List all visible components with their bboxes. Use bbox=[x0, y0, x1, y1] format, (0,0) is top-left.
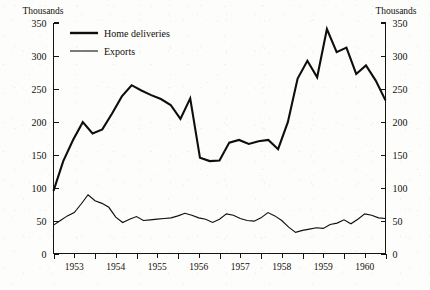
x-tick-label: 1957 bbox=[231, 262, 250, 272]
x-tick-label: 1953 bbox=[65, 262, 84, 272]
y-tick-label-right: 250 bbox=[393, 84, 408, 95]
y-tick-label-right: 200 bbox=[393, 117, 408, 128]
y-tick-label-right: 50 bbox=[393, 216, 403, 227]
line-chart: 050100150200250300350 050100150200250300… bbox=[0, 0, 430, 290]
x-tick-label: 1960 bbox=[355, 262, 374, 272]
x-tick-label: 1959 bbox=[314, 262, 333, 272]
y-tick-label-right: 150 bbox=[393, 150, 408, 161]
legend-label-home-deliveries: Home deliveries bbox=[104, 28, 170, 39]
y-axis-ticks-right bbox=[381, 24, 386, 255]
y-tick-label-left: 200 bbox=[32, 117, 47, 128]
right-unit-label: Thousands bbox=[375, 6, 416, 16]
y-axis-labels-left: 050100150200250300350 bbox=[32, 18, 47, 260]
y-tick-label-right: 100 bbox=[393, 183, 408, 194]
left-axis bbox=[54, 23, 59, 254]
y-tick-label-left: 300 bbox=[32, 51, 47, 62]
y-tick-label-left: 0 bbox=[42, 249, 47, 260]
x-tick-label: 1954 bbox=[106, 262, 125, 272]
y-tick-label-right: 0 bbox=[393, 249, 398, 260]
y-tick-label-left: 350 bbox=[32, 18, 47, 29]
x-tick-label: 1955 bbox=[148, 262, 167, 272]
chart-page: 050100150200250300350 050100150200250300… bbox=[0, 0, 430, 290]
y-tick-label-right: 350 bbox=[393, 18, 408, 29]
series-layer bbox=[54, 29, 386, 232]
y-tick-label-left: 150 bbox=[32, 150, 47, 161]
left-unit-label: Thousands bbox=[22, 6, 63, 16]
y-tick-label-left: 50 bbox=[37, 216, 47, 227]
x-axis-labels: 19531954195519561957195819591960 bbox=[65, 262, 375, 272]
y-tick-label-left: 100 bbox=[32, 183, 47, 194]
x-axis-ticks bbox=[55, 254, 387, 259]
chart-legend: Home deliveries Exports bbox=[70, 28, 170, 57]
legend-label-exports: Exports bbox=[104, 46, 135, 57]
y-axis-labels-right: 050100150200250300350 bbox=[393, 18, 408, 260]
series-line-exports bbox=[54, 195, 386, 233]
y-axis-ticks-left bbox=[54, 24, 59, 255]
x-tick-label: 1956 bbox=[189, 262, 208, 272]
y-tick-label-right: 300 bbox=[393, 51, 408, 62]
y-tick-label-left: 250 bbox=[32, 84, 47, 95]
x-tick-label: 1958 bbox=[272, 262, 291, 272]
